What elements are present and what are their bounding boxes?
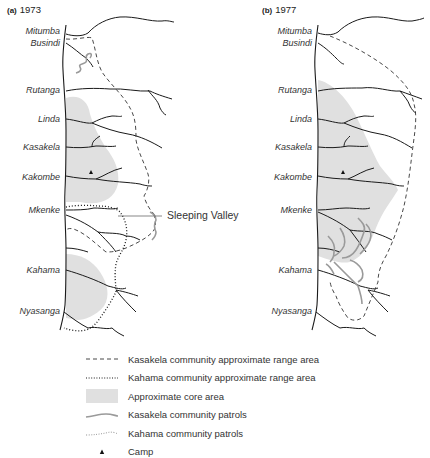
- legend-label: Camp: [128, 446, 153, 457]
- legend-item-core-area: Approximate core area: [80, 387, 420, 406]
- panel-a-map: [60, 17, 174, 336]
- place-label: Mkenke: [252, 205, 312, 215]
- legend-label: Approximate core area: [128, 391, 224, 402]
- legend-item-kasakela-patrols: Kasakela community patrols: [80, 406, 420, 425]
- grey-fill-icon: [84, 389, 120, 403]
- legend-label: Kahama community approximate range area: [128, 372, 315, 383]
- dotted-wavy-line-icon: [84, 426, 120, 440]
- legend-item-kasakela-range: Kasakela community approximate range are…: [80, 350, 420, 369]
- grey-wavy-line-icon: [84, 408, 120, 422]
- shoreline: [60, 25, 66, 330]
- core-area-south: [66, 254, 107, 320]
- place-label: Rutanga: [0, 85, 60, 95]
- place-label: Kakombe: [252, 172, 312, 182]
- place-label: Mitumba: [0, 26, 60, 36]
- place-label: Linda: [0, 114, 60, 124]
- place-label: Kasakela: [252, 142, 312, 152]
- legend-item-kahama-patrols: Kahama community patrols: [80, 424, 420, 443]
- shoreline-b: [312, 25, 318, 330]
- triangle-icon: [84, 445, 120, 458]
- panel-b-map: [312, 17, 424, 336]
- core-area-north: [66, 97, 118, 203]
- place-label: Nyasanga: [0, 306, 60, 316]
- legend: Kasakela community approximate range are…: [80, 350, 420, 458]
- place-label: Kakombe: [0, 172, 60, 182]
- place-label: Rutanga: [252, 85, 312, 95]
- place-label: Mitumba: [252, 26, 312, 36]
- place-label: Kahama: [0, 265, 60, 275]
- legend-label: Kasakela community approximate range are…: [128, 354, 319, 365]
- place-label: Mkenke: [0, 205, 60, 215]
- dashed-line-icon: [84, 352, 120, 366]
- legend-label: Kasakela community patrols: [128, 409, 247, 420]
- map-svg: [0, 0, 430, 350]
- legend-item-kahama-range: Kahama community approximate range area: [80, 369, 420, 388]
- legend-label: Kahama community patrols: [128, 428, 243, 439]
- legend-item-camp: Camp: [80, 443, 420, 458]
- place-label: Busindi: [0, 38, 60, 48]
- core-area-b: [318, 80, 398, 263]
- sleeping-valley-label: Sleeping Valley: [167, 209, 239, 221]
- place-label: Nyasanga: [252, 306, 312, 316]
- place-label: Kahama: [252, 265, 312, 275]
- place-label: Busindi: [252, 38, 312, 48]
- place-label: Linda: [252, 114, 312, 124]
- place-label: Kasakela: [0, 142, 60, 152]
- dotted-line-icon: [84, 371, 120, 385]
